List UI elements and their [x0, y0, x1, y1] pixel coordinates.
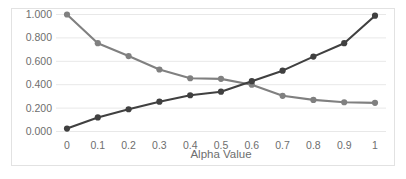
data-point-marker — [126, 53, 132, 59]
data-point-marker — [341, 99, 347, 105]
data-point-marker — [64, 125, 70, 131]
data-point-marker — [126, 106, 132, 112]
data-point-marker — [64, 11, 70, 17]
data-point-marker — [310, 54, 316, 60]
data-point-marker — [310, 97, 316, 103]
data-point-marker — [95, 40, 101, 46]
data-point-marker — [95, 114, 101, 120]
data-point-marker — [218, 76, 224, 82]
data-point-marker — [280, 68, 286, 74]
gridlines — [56, 15, 386, 132]
data-point-marker — [218, 89, 224, 95]
chart-container: 1.0000.8000.6000.4000.2000.000 00.10.20.… — [0, 0, 406, 179]
series-layer — [64, 11, 378, 131]
y-axis-tick-label: 0.200 — [12, 103, 52, 114]
data-point-marker — [249, 78, 255, 84]
data-point-marker — [372, 13, 378, 19]
data-point-marker — [372, 100, 378, 106]
data-point-marker — [187, 75, 193, 81]
series-ascending-series — [64, 13, 378, 132]
x-axis-title: Alpha Value — [56, 148, 386, 161]
y-axis-tick-label: 0.800 — [12, 32, 52, 43]
data-point-marker — [156, 66, 162, 72]
data-point-marker — [341, 40, 347, 46]
data-point-marker — [187, 92, 193, 98]
y-axis-tick-labels: 1.0000.8000.6000.4000.2000.000 — [8, 10, 52, 135]
y-axis-tick-label: 1.000 — [12, 9, 52, 20]
series-line — [67, 16, 375, 129]
data-point-marker — [280, 93, 286, 99]
y-axis-tick-label: 0.000 — [12, 126, 52, 137]
y-axis-tick-label: 0.600 — [12, 56, 52, 67]
plot-area — [56, 10, 386, 135]
plot-svg — [56, 10, 386, 135]
data-point-marker — [156, 99, 162, 105]
y-axis-tick-label: 0.400 — [12, 79, 52, 90]
